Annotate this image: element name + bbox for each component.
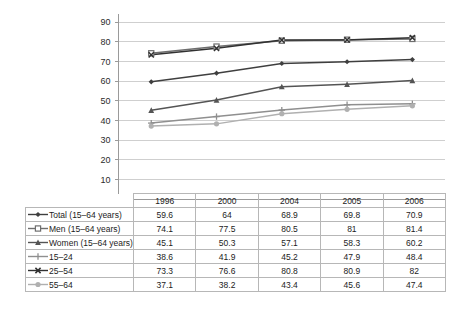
legend-label: 55–64	[49, 280, 73, 290]
table-cell: 43.4	[258, 278, 320, 292]
legend-marker-cross-plus-icon	[28, 251, 48, 262]
legend-marker-filled-diamond-icon	[28, 209, 48, 220]
table-row: Women (15–64 years)45.150.357.158.360.2	[26, 236, 446, 250]
y-axis-label-30: 30	[101, 135, 111, 145]
table-cell: 47.4	[383, 278, 445, 292]
table-corner-cell	[26, 194, 134, 208]
table-row: 15–2438.641.945.247.948.4	[26, 250, 446, 264]
legend-marker-filled-triangle-icon	[28, 237, 48, 248]
y-axis-label-50: 50	[101, 96, 111, 106]
column-header-1996: 1996	[134, 194, 196, 208]
table-cell: 68.9	[258, 208, 320, 222]
table-row: 55–6437.138.243.445.647.4	[26, 278, 446, 292]
data-point-s5-1	[214, 121, 219, 126]
y-axis-label-40: 40	[101, 116, 111, 126]
data-point-s5-4	[410, 103, 415, 108]
table-body: Total (15–64 years)59.66468.969.870.9Men…	[26, 208, 446, 292]
table-cell: 60.2	[383, 236, 445, 250]
data-point-s0-3	[344, 59, 349, 64]
table-cell: 80.8	[258, 264, 320, 278]
table-cell: 57.1	[258, 236, 320, 250]
data-point-s0-0	[149, 79, 154, 84]
line-chart-plot-area: 0102030405060708090	[0, 0, 461, 200]
y-axis-label-70: 70	[101, 57, 111, 67]
legend-row-1: Men (15–64 years)	[26, 222, 134, 236]
column-header-2004: 2004	[258, 194, 320, 208]
table-cell: 81.4	[383, 222, 445, 236]
table-cell: 74.1	[134, 222, 196, 236]
column-header-2005: 2005	[321, 194, 383, 208]
table-cell: 70.9	[383, 208, 445, 222]
table-cell: 59.6	[134, 208, 196, 222]
table-cell: 50.3	[196, 236, 258, 250]
chart-page: 0102030405060708090 1996 2000 2004 2005 …	[0, 0, 461, 311]
table-cell: 64	[196, 208, 258, 222]
table-cell: 82	[383, 264, 445, 278]
table-row: 25–5473.376.680.880.982	[26, 264, 446, 278]
legend-label: Women (15–64 years)	[49, 238, 133, 248]
table-cell: 37.1	[134, 278, 196, 292]
data-point-s5-0	[149, 123, 154, 128]
table-cell: 80.9	[321, 264, 383, 278]
table-cell: 80.5	[258, 222, 320, 236]
data-point-s0-1	[214, 71, 219, 76]
legend-label: 15–24	[49, 252, 73, 262]
table-cell: 58.3	[321, 236, 383, 250]
table-cell: 81	[321, 222, 383, 236]
data-point-s5-2	[279, 111, 284, 116]
legend-label: Men (15–64 years)	[49, 224, 120, 234]
column-header-2006: 2006	[383, 194, 445, 208]
y-axis-label-10: 10	[101, 175, 111, 185]
line-chart-svg: 0102030405060708090	[0, 0, 461, 200]
legend-row-2: Women (15–64 years)	[26, 236, 134, 250]
legend-row-0: Total (15–64 years)	[26, 208, 134, 222]
table-cell: 48.4	[383, 250, 445, 264]
y-axis-label-20: 20	[101, 155, 111, 165]
y-axis-label-60: 60	[101, 76, 111, 86]
data-table-wrapper: 1996 2000 2004 2005 2006 Total (15–64 ye…	[25, 193, 445, 292]
table-cell: 45.2	[258, 250, 320, 264]
y-axis-label-80: 80	[101, 37, 111, 47]
y-axis-label-90: 90	[101, 17, 111, 27]
table-cell: 45.6	[321, 278, 383, 292]
column-header-2000: 2000	[196, 194, 258, 208]
data-point-s3-1	[213, 113, 219, 119]
table-row: Men (15–64 years)74.177.580.58181.4	[26, 222, 446, 236]
table-cell: 47.9	[321, 250, 383, 264]
table-row: Total (15–64 years)59.66468.969.870.9	[26, 208, 446, 222]
legend-row-3: 15–24	[26, 250, 134, 264]
legend-label: Total (15–64 years)	[49, 210, 122, 220]
table-cell: 69.8	[321, 208, 383, 222]
legend-marker-open-square-icon	[28, 223, 48, 234]
legend-marker-x-mark-icon	[28, 265, 48, 276]
table-cell: 38.2	[196, 278, 258, 292]
data-table: 1996 2000 2004 2005 2006 Total (15–64 ye…	[25, 193, 446, 292]
table-cell: 77.5	[196, 222, 258, 236]
legend-row-5: 55–64	[26, 278, 134, 292]
table-cell: 73.3	[134, 264, 196, 278]
data-point-s5-3	[344, 107, 349, 112]
table-cell: 41.9	[196, 250, 258, 264]
table-header-row: 1996 2000 2004 2005 2006	[26, 194, 446, 208]
legend-label: 25–54	[49, 266, 73, 276]
table-cell: 38.6	[134, 250, 196, 264]
table-cell: 76.6	[196, 264, 258, 278]
table-cell: 45.1	[134, 236, 196, 250]
legend-row-4: 25–54	[26, 264, 134, 278]
legend-marker-filled-circle-icon	[28, 279, 48, 290]
